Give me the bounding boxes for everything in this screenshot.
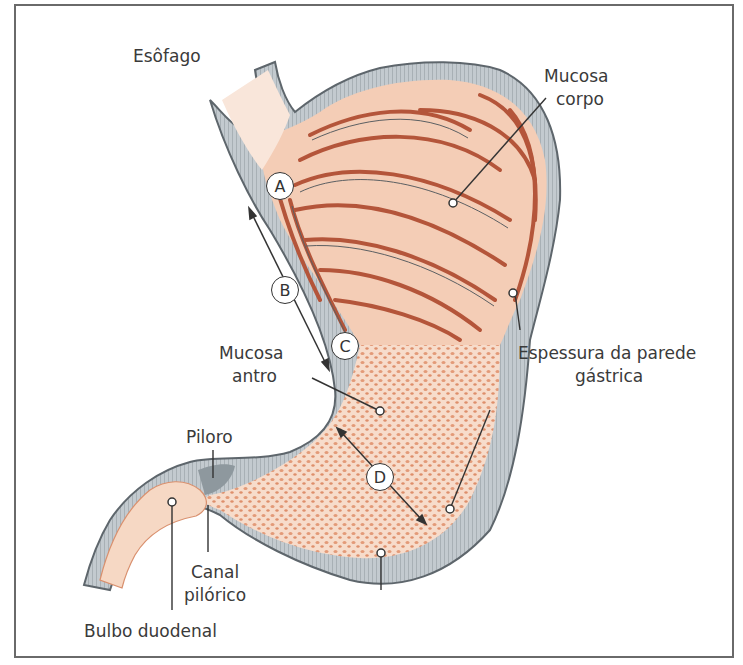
label-bulbo-duodenal: Bulbo duodenal [84,621,217,642]
label-mucosa-antro-line2: antro [232,366,277,387]
label-canal-pilorico-line1: Canal [191,562,239,583]
label-espessura-line2: gástrica [575,366,643,387]
label-mucosa-antro-line1: Mucosa [219,343,283,364]
marker-d: D [366,463,394,491]
marker-b: B [271,276,299,304]
label-canal-pilorico-line2: pilórico [184,585,246,606]
marker-a: A [266,172,294,200]
stomach-illustration [0,0,743,665]
label-mucosa-corpo-line1: Mucosa [544,66,608,87]
label-piloro: Piloro [186,427,233,448]
marker-c: C [331,332,359,360]
label-espessura-line1: Espessura da parede [518,343,696,364]
label-mucosa-corpo-line2: corpo [556,89,604,110]
label-esofago: Esôfago [133,46,201,67]
